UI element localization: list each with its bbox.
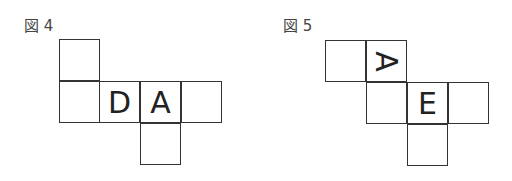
cube-net-diagrams: 図 4 D A 図 5 A E [0, 0, 512, 181]
net-cell [181, 81, 222, 123]
figure-5-label: 図 5 [283, 14, 312, 35]
net-cell [325, 40, 366, 82]
net-cell-a-rotated: A [366, 40, 407, 82]
net-cell-a: A [140, 81, 181, 123]
figure-4-label: 図 4 [24, 14, 53, 35]
net-cell [366, 82, 407, 124]
net-cell [59, 39, 100, 81]
net-cell-e: E [407, 82, 448, 124]
net-cell [59, 81, 100, 123]
net-cell [448, 82, 489, 124]
net-cell [140, 123, 181, 165]
net-cell-d: D [99, 81, 140, 123]
net-cell [407, 124, 448, 166]
